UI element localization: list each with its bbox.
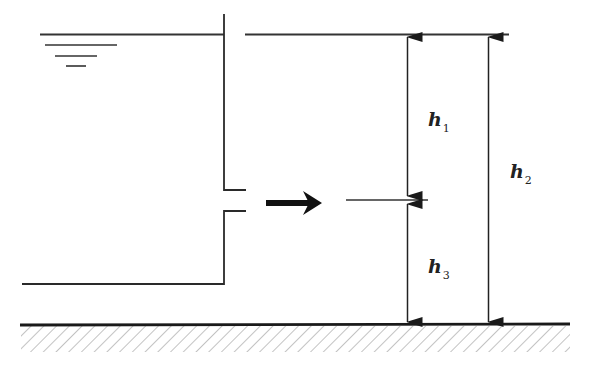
tank-wall (22, 14, 246, 284)
dimension-h2: h2 (489, 37, 532, 322)
label-h1: h1 (428, 108, 450, 135)
ground-hatching (21, 326, 570, 352)
label-h2: h2 (510, 160, 532, 187)
dimension-h1: h1 (408, 37, 450, 196)
dimension-h3: h3 (408, 204, 450, 322)
flow-arrow-icon (266, 191, 322, 215)
upper-wall-segment (224, 14, 246, 190)
orifice-diagram: h1 h3 h2 (0, 0, 589, 369)
ground-line (20, 324, 570, 325)
lower-wall-segment (22, 211, 246, 284)
label-h3: h3 (428, 255, 450, 282)
water-level-symbol-icon (45, 45, 117, 66)
ground (20, 324, 570, 352)
